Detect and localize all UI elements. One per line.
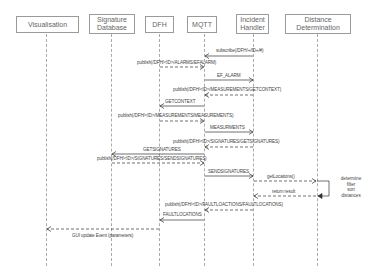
message-label-faultlocations: FAULTLOCATIONS (163, 212, 202, 217)
message-label-getsignatures: GETSIGNATURES (143, 147, 181, 152)
message-label-publish-efalarm: publish(/DFH/<ID>/ALARMS/EFALARM) (137, 60, 216, 65)
self-note-distance-determination: determine filter sort distances (333, 176, 369, 198)
message-label-subscribe: subscribe(/DFH/+/ID+/#) (216, 48, 263, 53)
message-label-publish-sendsignatures: publish(/DFH/<ID>/SIGNATURES/SENDSIGNATU… (97, 156, 207, 161)
message-label-ef-alarm: EF_ALARM (217, 73, 240, 78)
message-label-publish-getcontext: publish(/DFH/<ID>/MEASUREMENTS/GETCONTEX… (173, 87, 281, 92)
message-label-gui-update: GUI update Event (parameters) (72, 233, 133, 238)
message-label-publish-faultlocations: publish(/DFH/<ID>/FAULTLOACTIONS/FAULTLO… (165, 202, 283, 207)
message-label-publish-measurements: publish(/DFH/<ID>/MEASUREMENTS/MEASUREME… (118, 113, 233, 118)
note-line: distances (333, 193, 369, 199)
message-label-getcontext: GETCONTEXT (165, 99, 195, 104)
message-label-getlocations: getLocations() (267, 174, 295, 179)
message-label-return-result: return result (272, 189, 295, 194)
message-label-sendsignatures: SENDSIGNATURES (208, 169, 249, 174)
message-arrows (0, 0, 372, 269)
message-label-measurments: MEASURMENTS (210, 125, 245, 130)
message-label-publish-getsignatures: publish(/DFH/<ID>/SIGNATURES/GETSIGNATUR… (173, 139, 279, 144)
